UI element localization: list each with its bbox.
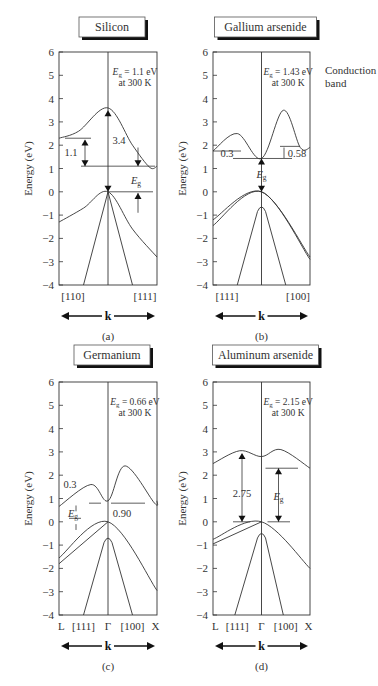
svg-text:3.4: 3.4 — [112, 135, 126, 146]
svg-text:0.3: 0.3 — [220, 148, 233, 159]
light-hole-band-right-curve — [108, 192, 133, 285]
svg-text:[111]: [111] — [226, 620, 249, 632]
svg-text:Γ: Γ — [258, 620, 264, 632]
svg-text:at 300 K: at 300 K — [119, 408, 152, 418]
svg-text:−4: −4 — [196, 609, 208, 621]
svg-text:[111]: [111] — [133, 290, 156, 302]
svg-text:6: 6 — [203, 46, 209, 58]
svg-text:2: 2 — [49, 139, 55, 151]
svg-text:k: k — [258, 639, 265, 653]
svg-text:[111]: [111] — [215, 290, 238, 302]
svg-text:k: k — [105, 639, 112, 653]
y-axis-label: Energy (eV) — [176, 471, 189, 526]
svg-text:0.90: 0.90 — [113, 508, 131, 519]
svg-text:at 300 K: at 300 K — [272, 78, 305, 88]
svg-text:2.75: 2.75 — [233, 488, 251, 499]
svg-text:[100]: [100] — [286, 290, 310, 302]
panel-d: Aluminum arsenide−4−3−2−10123456Energy (… — [176, 345, 322, 673]
svg-text:5: 5 — [49, 69, 55, 81]
svg-text:−3: −3 — [196, 256, 208, 268]
svg-text:4: 4 — [49, 423, 55, 435]
svg-text:−3: −3 — [42, 586, 54, 598]
panel-title: Silicon — [95, 20, 129, 34]
svg-text:X: X — [152, 620, 160, 632]
svg-text:3: 3 — [203, 446, 209, 458]
y-axis-label: Energy (eV) — [22, 471, 35, 526]
svg-text:−2: −2 — [42, 562, 54, 574]
valence-band-lower-curve — [213, 522, 262, 544]
svg-text:Γ: Γ — [105, 620, 111, 632]
panel-caption: (d) — [255, 660, 268, 673]
svg-text:6: 6 — [49, 46, 55, 58]
svg-text:Eg: Eg — [130, 175, 141, 188]
svg-text:4: 4 — [49, 93, 55, 105]
valence-band-lower-curve — [59, 522, 108, 564]
panel-title: Gallium arsenide — [224, 20, 306, 34]
svg-text:Eg: Eg — [67, 508, 78, 521]
svg-text:6: 6 — [203, 376, 209, 388]
svg-text:−3: −3 — [196, 586, 208, 598]
band-structure-figure: Silicon−4−3−2−10123456Energy (eV)Eg = 1.… — [0, 0, 378, 686]
y-axis-label: Energy (eV) — [176, 141, 189, 196]
svg-text:−3: −3 — [42, 256, 54, 268]
svg-text:0: 0 — [203, 186, 209, 198]
svg-text:k: k — [105, 309, 112, 323]
svg-text:[100]: [100] — [274, 620, 298, 632]
svg-text:at 300 K: at 300 K — [119, 78, 152, 88]
svg-text:[100]: [100] — [121, 620, 145, 632]
svg-text:0: 0 — [49, 516, 55, 528]
svg-text:5: 5 — [203, 399, 209, 411]
panel-a: Silicon−4−3−2−10123456Energy (eV)Eg = 1.… — [22, 17, 157, 343]
svg-text:0.3: 0.3 — [63, 479, 76, 490]
svg-text:5: 5 — [49, 399, 55, 411]
svg-text:3: 3 — [49, 446, 55, 458]
svg-text:3: 3 — [203, 116, 209, 128]
svg-text:−1: −1 — [196, 539, 208, 551]
svg-text:[111]: [111] — [72, 620, 95, 632]
svg-text:1: 1 — [203, 493, 209, 505]
svg-text:−2: −2 — [196, 562, 208, 574]
svg-text:−2: −2 — [196, 232, 208, 244]
panel-b: Gallium arsenide−4−3−2−10123456Energy (e… — [176, 17, 320, 343]
svg-text:L: L — [58, 620, 65, 632]
svg-text:−1: −1 — [42, 539, 54, 551]
panel-c: Germanium−4−3−2−10123456Energy (eV)Eg = … — [22, 345, 160, 673]
svg-text:k: k — [258, 309, 265, 323]
svg-text:5: 5 — [203, 69, 209, 81]
svg-text:0.58: 0.58 — [288, 148, 306, 159]
svg-text:6: 6 — [49, 376, 55, 388]
svg-text:1: 1 — [49, 163, 55, 175]
svg-text:−4: −4 — [42, 609, 54, 621]
panel-caption: (c) — [102, 660, 115, 673]
panel-caption: (b) — [255, 330, 268, 343]
svg-text:−4: −4 — [196, 279, 208, 291]
svg-text:3: 3 — [49, 116, 55, 128]
svg-text:2: 2 — [49, 469, 55, 481]
y-axis-label: Energy (eV) — [22, 141, 35, 196]
panel-title: Aluminum arsenide — [218, 348, 313, 362]
svg-text:2: 2 — [203, 139, 209, 151]
svg-text:0: 0 — [203, 516, 209, 528]
svg-text:−4: −4 — [42, 279, 54, 291]
svg-text:1: 1 — [203, 163, 209, 175]
svg-text:−1: −1 — [42, 209, 54, 221]
svg-text:0: 0 — [49, 186, 55, 198]
svg-text:1.1: 1.1 — [64, 147, 77, 158]
svg-text:L: L — [212, 620, 219, 632]
svg-text:4: 4 — [203, 423, 209, 435]
panel-title: Germanium — [83, 348, 141, 362]
svg-text:2: 2 — [203, 469, 209, 481]
svg-text:−2: −2 — [42, 232, 54, 244]
svg-text:4: 4 — [203, 93, 209, 105]
svg-text:[110]: [110] — [61, 290, 84, 302]
svg-text:at 300 K: at 300 K — [272, 408, 305, 418]
svg-text:1: 1 — [49, 493, 55, 505]
panel-caption: (a) — [102, 330, 115, 343]
svg-text:−1: −1 — [196, 209, 208, 221]
split-off-band-curve — [235, 533, 284, 615]
svg-text:X: X — [305, 620, 313, 632]
